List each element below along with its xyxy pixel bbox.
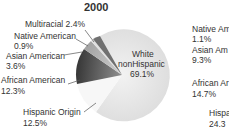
right-label-african-name: African Ar [192, 78, 229, 88]
label-multiracial: Multiracial 2.4% [25, 19, 85, 29]
label-african-name: African American [1, 75, 65, 85]
label-african-value: 12.3% [1, 86, 25, 96]
label-white-value: 69.1% [130, 69, 154, 79]
label-hispanic-name: Hispanic Origin [23, 107, 81, 117]
label-white-line1: White [132, 49, 154, 59]
right-label-asian-value: 9.3% [192, 55, 211, 65]
right-label-african-value: 14.7% [192, 89, 216, 99]
label-asian-value: 3.6% [6, 61, 25, 71]
label-native-name: Native American [14, 31, 76, 41]
label-asian-name: Asian American [6, 51, 65, 61]
right-label-hispanic-value: 24.3 [209, 119, 226, 129]
right-label-asian-name: Asian Am [192, 45, 228, 55]
label-hispanic-value: 12.5% [23, 118, 47, 128]
right-label-native-value: 1.1% [192, 34, 211, 44]
label-native-value: 0.9% [14, 41, 33, 51]
right-label-hispanic-name: Hispa [209, 108, 229, 118]
label-white-line2: nonHispanic [118, 59, 165, 69]
right-label-native-name: Native Am [192, 24, 229, 34]
